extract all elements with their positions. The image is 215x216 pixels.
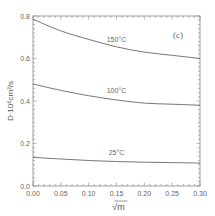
x-tick-label: 0.25 [165, 190, 179, 197]
x-tick-label: 0.10 [82, 190, 96, 197]
x-axis-label: √m [112, 202, 124, 212]
y-tick-label: 0.4 [20, 98, 30, 105]
y-tick-label: 0.0 [20, 183, 30, 190]
curve-label: 25°C [109, 149, 125, 156]
curve-label: 100°C [107, 87, 127, 94]
line-chart: 0.000.050.100.150.200.250.300.00.20.40.6… [0, 0, 215, 216]
curve-label: 150°C [107, 36, 127, 43]
y-tick-label: 0.8 [20, 13, 30, 20]
x-tick-label: 0.20 [138, 190, 152, 197]
y-tick-label: 0.2 [20, 140, 30, 147]
x-tick-label: 0.30 [193, 190, 207, 197]
y-axis-label: D·10⁶cm²/s [6, 81, 15, 121]
panel-label: (c) [173, 30, 183, 40]
x-tick-label: 0.15 [110, 190, 124, 197]
y-tick-label: 0.6 [20, 55, 30, 62]
x-tick-label: 0.05 [54, 190, 68, 197]
x-tick-label: 0.00 [26, 190, 40, 197]
series-line-25c [33, 157, 200, 163]
